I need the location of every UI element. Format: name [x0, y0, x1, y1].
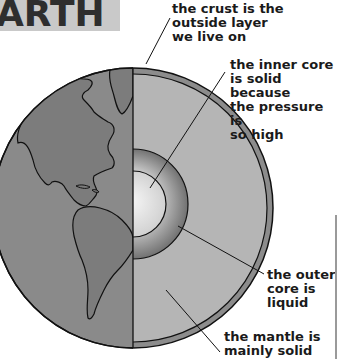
inner-core-label: the inner core is solid because the pres… — [230, 58, 337, 142]
crust-label: the crust is the outside layer we live o… — [172, 2, 284, 44]
crust-leader-line — [146, 18, 170, 64]
outer-core-label: the outer core is liquid — [267, 268, 335, 310]
mantle-label: the mantle is mainly solid — [224, 330, 321, 358]
